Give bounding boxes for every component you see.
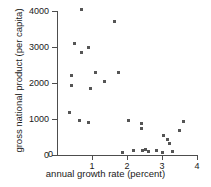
data-point: [140, 122, 143, 125]
data-point: [171, 150, 174, 153]
data-point: [113, 20, 116, 23]
data-point: [141, 149, 144, 152]
data-point: [70, 84, 73, 87]
data-point: [117, 71, 120, 74]
data-point: [94, 71, 97, 74]
data-point: [168, 142, 171, 145]
data-point: [68, 111, 71, 114]
data-point: [155, 149, 158, 152]
data-point: [140, 127, 143, 130]
data-point: [178, 129, 181, 132]
data-point: [80, 8, 83, 11]
data-point: [70, 74, 73, 77]
data-point: [161, 151, 164, 154]
x-axis-title: annual growth rate (percent): [0, 168, 211, 179]
data-point: [121, 151, 124, 154]
data-point: [87, 121, 90, 124]
plot-data-area: [57, 11, 197, 155]
data-point: [73, 42, 76, 45]
scatter-plot-figure: 01000200030004000 01234 gross national p…: [0, 0, 211, 187]
data-point: [127, 119, 130, 122]
x-tick-mark: [92, 155, 93, 160]
data-point: [103, 80, 106, 83]
x-tick-mark: [127, 155, 128, 160]
data-point: [162, 134, 165, 137]
data-point: [182, 120, 185, 123]
data-point: [87, 46, 90, 49]
data-point: [78, 119, 81, 122]
x-tick-mark: [197, 155, 198, 160]
data-point: [80, 51, 83, 54]
y-axis-title: gross national product (per capita): [13, 1, 24, 161]
data-point: [89, 87, 92, 90]
x-tick-label: 0: [29, 150, 53, 159]
data-point: [132, 149, 135, 152]
data-point: [147, 150, 150, 153]
x-tick-mark: [162, 155, 163, 160]
